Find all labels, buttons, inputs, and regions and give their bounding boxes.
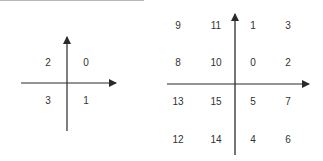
- cell-label: 6: [285, 135, 291, 145]
- cell-label: 0: [250, 58, 256, 68]
- cell-label: 15: [210, 97, 221, 107]
- cell-label: 9: [175, 21, 181, 31]
- quadrant-label: 0: [83, 58, 89, 68]
- cell-label: 13: [172, 97, 183, 107]
- cell-label: 2: [285, 58, 291, 68]
- cell-label: 10: [210, 58, 221, 68]
- left-axes: [21, 37, 116, 131]
- cell-label: 5: [250, 97, 256, 107]
- cell-label: 12: [172, 135, 183, 145]
- axes-canvas: [0, 0, 323, 161]
- quadrant-label: 3: [45, 96, 51, 106]
- cell-label: 3: [285, 21, 291, 31]
- cell-label: 1: [250, 21, 256, 31]
- cell-label: 14: [210, 135, 221, 145]
- cell-label: 8: [175, 58, 181, 68]
- cell-label: 4: [250, 135, 256, 145]
- cell-label: 7: [285, 97, 291, 107]
- cell-label: 11: [211, 21, 221, 31]
- quadrant-label: 1: [83, 96, 89, 106]
- quadrant-label: 2: [45, 58, 51, 68]
